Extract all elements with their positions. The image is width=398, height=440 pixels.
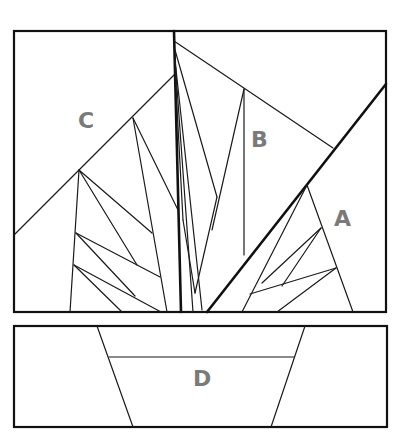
section-label-c: C xyxy=(78,108,94,133)
section-label-b: B xyxy=(251,127,268,152)
section-label-a: A xyxy=(334,206,351,231)
pattern-diagram: C B A D xyxy=(0,0,398,440)
top-panel xyxy=(14,31,386,312)
section-label-d: D xyxy=(193,366,211,391)
